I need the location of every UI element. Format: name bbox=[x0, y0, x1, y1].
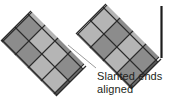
annotation-line-1: Slanted ends bbox=[97, 70, 162, 82]
patchwork-illustration bbox=[0, 0, 178, 109]
annotation-line-2: aligned bbox=[97, 83, 133, 95]
figure-canvas: Slanted ends aligned bbox=[0, 0, 178, 109]
